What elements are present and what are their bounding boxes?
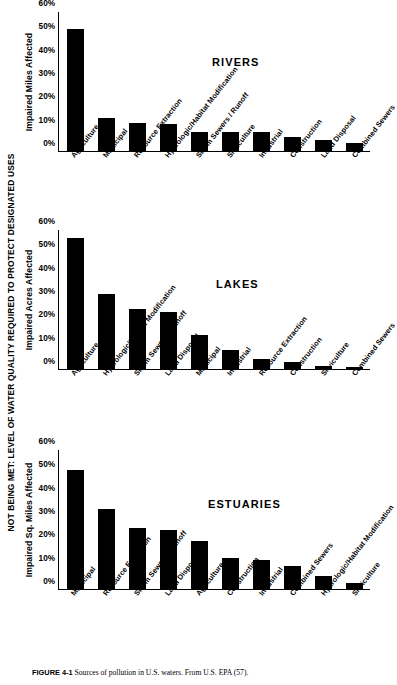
- figure-caption: FIGURE 4-1 Sources of pollution in U.S. …: [32, 668, 372, 677]
- y-axis-tick: 30%: [29, 69, 55, 78]
- x-axis-labels-estuaries: MunicipalResource ExtractionStorm Sewers…: [60, 592, 372, 656]
- y-axis-tick: 30%: [29, 287, 55, 296]
- chart-panel-lakes: Impaired Acres Affected 0%10%20%30%40%50…: [24, 222, 382, 436]
- y-axis-tick: 60%: [29, 217, 55, 226]
- chart-title-rivers: RIVERS: [212, 56, 260, 68]
- chart-panel-rivers: Impaired Miles Affected 0%10%20%30%40%50…: [24, 4, 382, 218]
- y-axis-tick: 10%: [29, 553, 55, 562]
- bar: [67, 470, 84, 588]
- figure-caption-label: FIGURE 4-1: [32, 668, 73, 677]
- y-axis-tick: 60%: [29, 0, 55, 8]
- figure-caption-text: Sources of pollution in U.S. waters. Fro…: [75, 668, 249, 677]
- y-axis-tick: 40%: [29, 263, 55, 272]
- y-axis-tick: 0%: [29, 577, 55, 586]
- y-axis-tick: 50%: [29, 240, 55, 249]
- bar-slot: [91, 450, 122, 589]
- y-axis-tick: 40%: [29, 45, 55, 54]
- chart-panel-estuaries: Impaired Sq. Miles Affected 0%10%20%30%4…: [24, 442, 382, 660]
- y-axis-label: Impaired Miles Affected: [22, 12, 36, 152]
- y-axis-tick: 40%: [29, 483, 55, 492]
- bar: [67, 29, 84, 151]
- chart-title-lakes: LAKES: [216, 278, 259, 290]
- y-axis-tick: 0%: [29, 357, 55, 366]
- y-axis-label: Impaired Acres Affected: [22, 230, 36, 370]
- bar: [67, 238, 84, 369]
- y-axis-tick: 50%: [29, 22, 55, 31]
- y-axis-tick: 20%: [29, 310, 55, 319]
- y-axis-label: Impaired Sq. Miles Affected: [22, 450, 36, 590]
- bar-slot: [246, 230, 277, 369]
- figure-side-caption: NOT BEING MET: LEVEL OF WATER QUALITY RE…: [0, 0, 22, 685]
- y-axis-tick: 10%: [29, 115, 55, 124]
- y-axis-tick: 20%: [29, 92, 55, 101]
- y-axis-tick: 50%: [29, 460, 55, 469]
- y-axis-tick: 10%: [29, 333, 55, 342]
- y-axis-tick: 30%: [29, 507, 55, 516]
- y-axis-tick: 0%: [29, 139, 55, 148]
- chart-title-estuaries: ESTUARIES: [208, 498, 281, 510]
- y-axis-tick: 60%: [29, 437, 55, 446]
- y-axis-tick: 20%: [29, 530, 55, 539]
- x-axis-labels-lakes: AgricultureHydrologic/Habitat Modificati…: [60, 372, 372, 436]
- x-axis-labels-rivers: AgricultureMunicipalResource ExtractionH…: [60, 154, 372, 218]
